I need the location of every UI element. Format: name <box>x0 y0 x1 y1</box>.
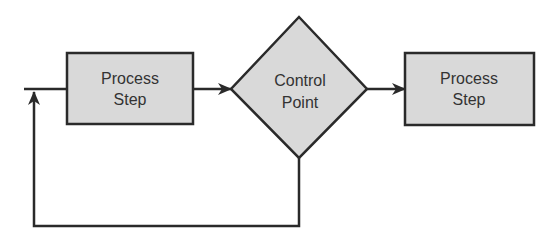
control-point-label-line1: Control <box>274 72 326 89</box>
process-step-1: Process Step <box>67 53 193 124</box>
control-point: Control Point <box>231 17 367 158</box>
process-step-1-box <box>67 53 193 124</box>
process-step-2-label-line2: Step <box>453 91 486 108</box>
process-step-2-label-line1: Process <box>440 70 498 87</box>
process-step-2-box <box>405 53 534 125</box>
flowchart: Process Step Control Point Process Step <box>0 0 550 239</box>
process-step-1-label-line1: Process <box>101 70 159 87</box>
process-step-1-label-line2: Step <box>114 91 147 108</box>
control-point-label-line2: Point <box>282 94 319 111</box>
process-step-2: Process Step <box>405 53 534 125</box>
